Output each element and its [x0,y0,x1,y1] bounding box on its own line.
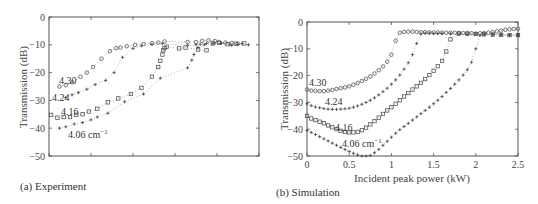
svg-text:−20: −20 [287,70,303,81]
y-axis-label: Transmission (dB) [278,48,291,130]
svg-text:−10: −10 [287,43,303,54]
svg-text:−40: −40 [287,124,303,135]
label-4-16: 4.16 [61,106,79,117]
svg-text:Transmission (dB): Transmission (dB) [278,48,291,130]
series-424 [64,42,250,100]
svg-text:−20: −20 [29,67,45,78]
experiment-chart: Transmission (dB) 0 −10 −20 −30 −40 −50 … [0,0,270,204]
svg-text:−40: −40 [29,123,45,134]
svg-text:−50: −50 [29,151,45,162]
panel-simulation: Transmission (dB) 0 −10 −20 −30 −40 −50 … [270,0,538,204]
svg-text:2: 2 [473,159,478,170]
svg-text:−30: −30 [29,95,45,106]
y-tick-labels: 0 −10 −20 −30 −40 −50 [29,12,45,162]
svg-text:0.5: 0.5 [343,159,356,170]
label-4-24: 4.24 [52,92,70,103]
series-labels: 4.30 4.24 4.16 4.06 cm−1 [52,75,108,140]
caption-simulation: (b) Simulation [276,186,340,198]
svg-text:Transmission (dB): Transmission (dB) [17,46,30,128]
svg-text:0: 0 [305,159,310,170]
simulation-chart: Transmission (dB) 0 −10 −20 −30 −40 −50 … [270,0,538,204]
svg-text:−50: −50 [287,151,303,162]
caption-experiment: (a) Experiment [20,180,86,192]
svg-text:−30: −30 [287,97,303,108]
svg-text:0: 0 [40,12,45,23]
label-4-30: 4.30 [59,75,77,86]
series-430 [305,27,520,93]
svg-text:1.5: 1.5 [427,159,440,170]
x-tick-labels: 0 0.5 1 1.5 2 2.5 [305,159,525,170]
svg-text:1: 1 [389,159,394,170]
svg-text:Incident peak power (kW): Incident peak power (kW) [354,172,470,185]
svg-text:−10: −10 [29,39,45,50]
svg-text:0: 0 [298,17,303,28]
label-4-06: 4.06 cm−1 [342,137,382,149]
x-axis-label: Incident peak power (kW) [354,172,470,185]
label-4-30: 4.30 [309,77,327,88]
label-4-24: 4.24 [325,96,343,107]
label-4-16: 4.16 [335,122,353,133]
label-4-06: 4.06 cm−1 [68,128,108,140]
series-416 [49,41,246,119]
y-axis-label: Transmission (dB) [17,46,30,128]
panel-experiment: Transmission (dB) 0 −10 −20 −30 −40 −50 … [0,0,270,204]
svg-text:2.5: 2.5 [512,159,525,170]
series-430 [58,39,240,89]
series-4061 [58,42,244,130]
plot-area [305,22,520,158]
